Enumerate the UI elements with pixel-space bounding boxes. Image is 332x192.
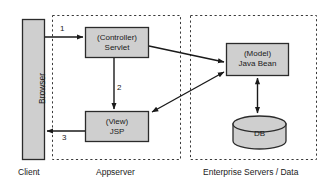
zone-caption-client: Client — [18, 167, 40, 177]
edge-controller-to-model — [149, 46, 224, 62]
edge-view-to-model — [152, 72, 224, 112]
node-controller-shape[interactable] — [86, 28, 149, 58]
edge-label-1: 1 — [60, 24, 64, 33]
edge-label-3: 3 — [62, 133, 66, 142]
diagram-svg — [0, 0, 332, 192]
zone-caption-appserver: Appserver — [96, 167, 135, 177]
edge-label-2: 2 — [117, 83, 121, 92]
node-view-shape[interactable] — [86, 112, 149, 142]
zone-caption-enterprise: Enterprise Servers / Data — [203, 167, 298, 177]
node-browser-label: Browser — [37, 73, 47, 104]
diagram-canvas: Browser (Controller) Servlet (View) JSP … — [0, 0, 332, 192]
node-db-shape[interactable] — [233, 116, 286, 149]
node-model-shape[interactable] — [227, 44, 289, 76]
